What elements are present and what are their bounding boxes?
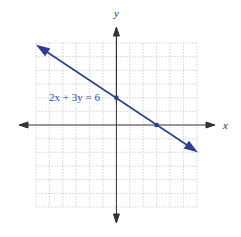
line-upper-arrow-icon [38,46,49,55]
x-axis-right-arrow-icon [206,122,215,128]
equation-label: 2x + 3y = 6 [49,91,100,103]
line-lower-arrow-icon [185,142,196,151]
y-axis-up-arrow-icon [113,27,119,36]
x-axis-left-arrow-icon [19,122,28,128]
y-intercept-point [114,96,118,100]
x-axis-label: x [222,119,228,131]
y-axis-down-arrow-icon [113,214,119,223]
x-intercept-point [155,123,159,127]
coordinate-plane: 2x + 3y = 6 x y [0,0,241,237]
y-axis-label: y [113,7,119,19]
